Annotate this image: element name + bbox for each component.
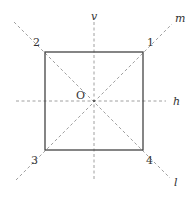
square-symmetry-diagram: O 1 2 3 4 v h m l [0,0,192,198]
axis-label-v: v [91,10,98,23]
vertex-label-2: 2 [33,36,40,49]
axis-label-h: h [173,95,180,108]
center-label: O [76,89,85,102]
vertex-label-3: 3 [31,154,38,167]
axis-label-m: m [175,12,185,25]
axis-label-l: l [174,176,178,189]
vertex-label-4: 4 [146,154,153,167]
center-point [93,100,95,102]
vertex-label-1: 1 [147,36,154,49]
